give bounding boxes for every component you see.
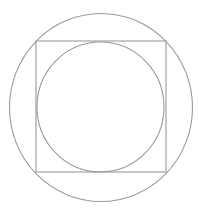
inner-circle — [37, 42, 164, 172]
geometry-diagram — [0, 0, 199, 213]
